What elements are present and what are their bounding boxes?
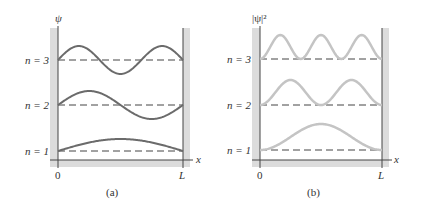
panel-b: |ψ|² x n = 3 n = 2 n = 1 0 L (b) — [227, 12, 399, 199]
level-label-n3: n = 3 — [227, 53, 251, 65]
figure: ψ x n = 3 n = 2 n = 1 0 L (a) |ψ|² x n =… — [0, 0, 423, 207]
floor-shade — [252, 160, 389, 167]
x-axis-label: x — [195, 153, 201, 165]
probability-density-n2 — [260, 80, 382, 105]
floor-shade — [50, 160, 190, 167]
left-wall-shade — [252, 28, 260, 167]
caption-b: (b) — [307, 186, 320, 199]
left-wall-shade — [50, 28, 58, 167]
level-label-n3: n = 3 — [25, 54, 49, 66]
probability-density-n1 — [260, 124, 382, 150]
level-label-n1: n = 1 — [25, 145, 49, 157]
wavefunction-n3 — [58, 46, 183, 74]
y-axis-label: |ψ|² — [252, 12, 267, 24]
panel-a: ψ x n = 3 n = 2 n = 1 0 L (a) — [25, 12, 201, 199]
caption-a: (a) — [106, 186, 119, 199]
level-label-n2: n = 2 — [25, 99, 49, 111]
x-axis-label: x — [393, 153, 399, 165]
wavefunction-n2 — [58, 91, 183, 119]
x-tick-0: 0 — [55, 169, 61, 181]
y-axis-label: ψ — [55, 12, 62, 24]
level-label-n1: n = 1 — [227, 144, 251, 156]
probability-density-n3 — [260, 35, 382, 59]
right-wall-shade — [382, 28, 389, 167]
x-tick-0: 0 — [257, 169, 263, 181]
wavefunction-n1 — [58, 139, 183, 151]
x-tick-L: L — [178, 169, 185, 181]
level-label-n2: n = 2 — [227, 99, 251, 111]
x-tick-L: L — [377, 169, 384, 181]
right-wall-shade — [183, 28, 190, 167]
